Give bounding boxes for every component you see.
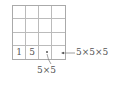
dot-icon	[46, 51, 48, 53]
arrow-label: 5×5×5	[76, 47, 108, 57]
curve-line	[47, 54, 51, 64]
dot-label: 5×5	[37, 65, 56, 75]
annotation-lines	[0, 0, 121, 86]
arrow-head-icon	[61, 52, 64, 54]
